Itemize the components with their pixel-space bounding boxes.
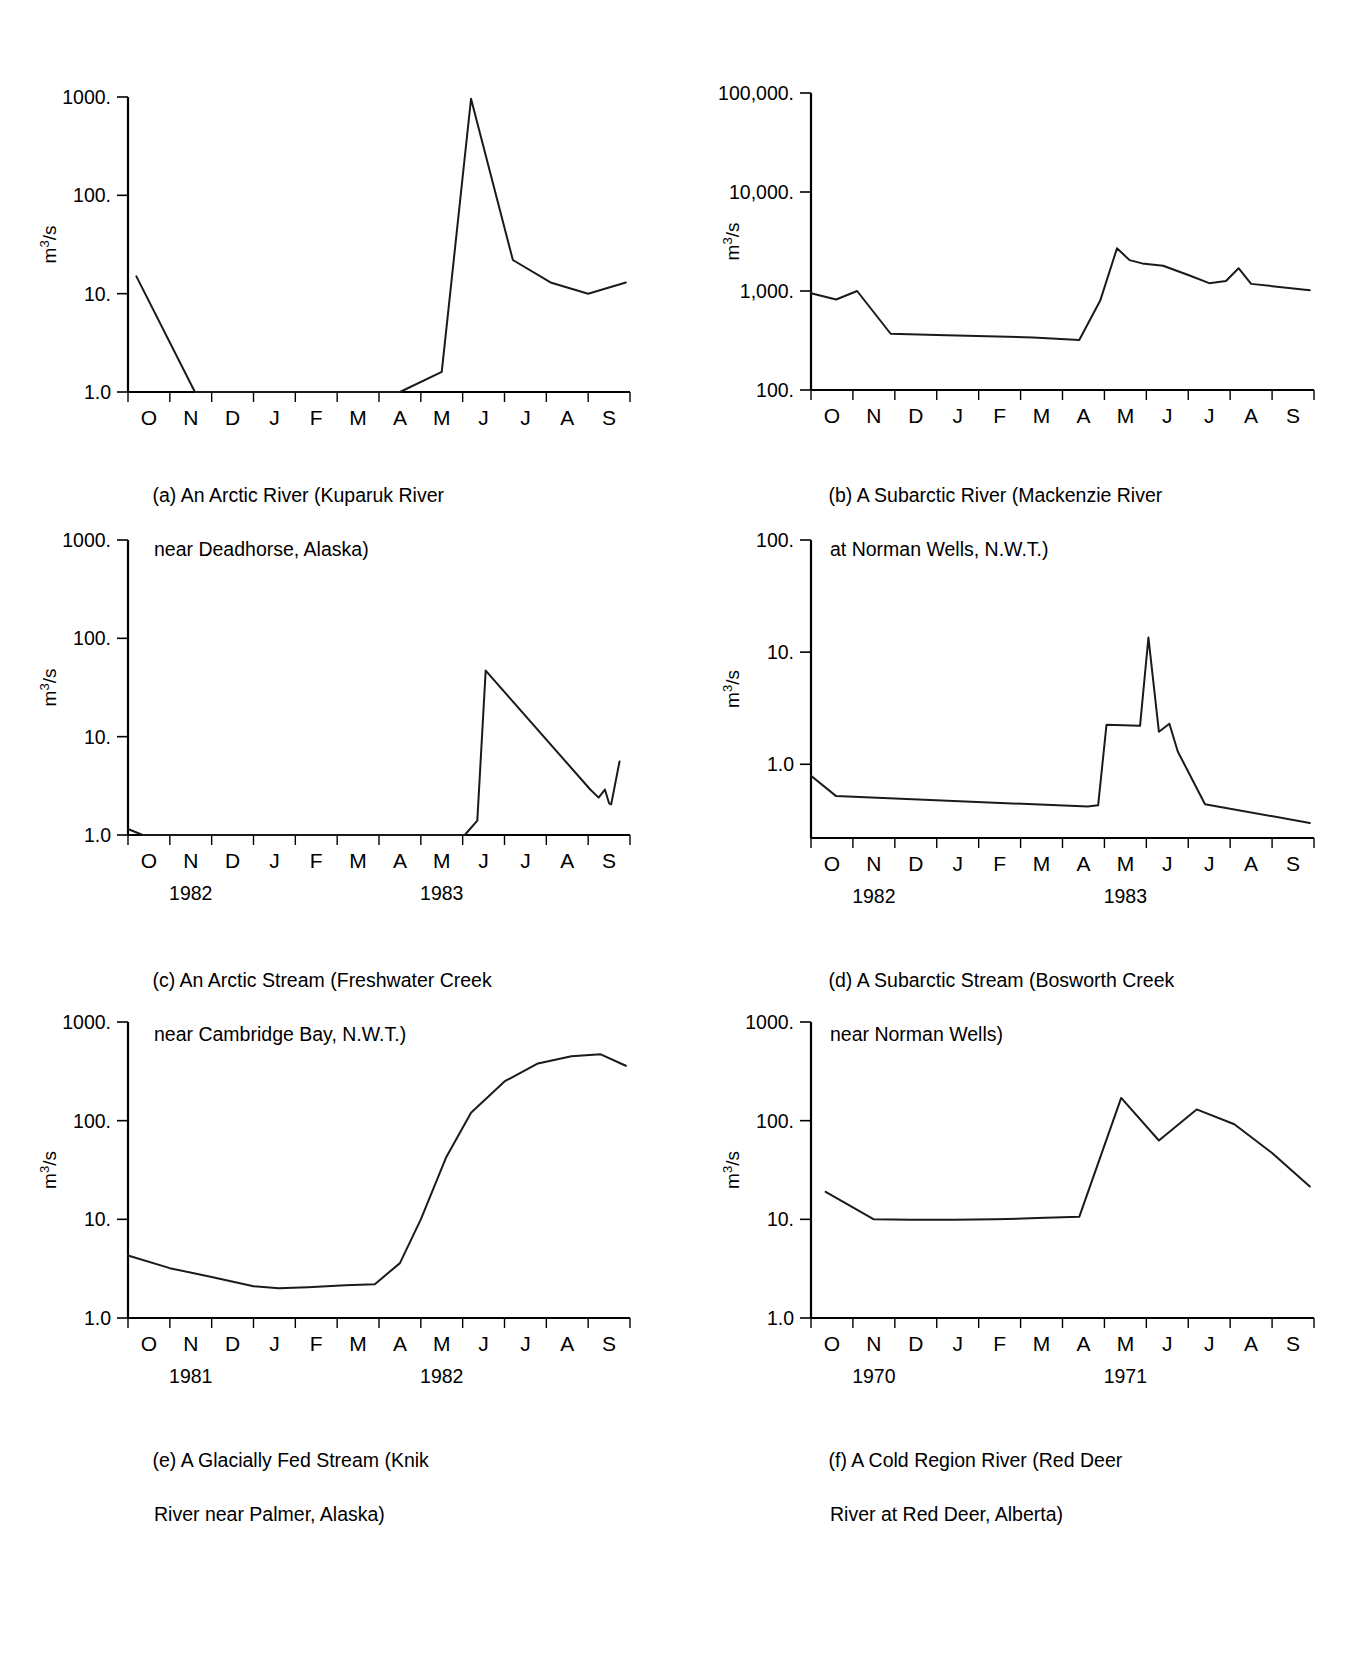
panel-c-svg: 1000.100.10.1.0m3/sONDJFMAMJJAS19821983 — [0, 520, 676, 925]
y-axis-title: m3/s — [37, 226, 60, 264]
y-axis-tick-label: 1000. — [62, 529, 111, 551]
y-axis-title: m3/s — [37, 1151, 60, 1189]
panel-d-svg: 100.10.1.0m3/sONDJFMAMJJAS19821983 — [676, 520, 1352, 925]
y-axis-tick-label: 10. — [84, 726, 111, 748]
x-axis-month-label: D — [225, 849, 240, 872]
x-axis-month-label: N — [866, 852, 881, 875]
y-axis-tick-label: 100. — [756, 379, 794, 401]
x-axis-month-label: D — [908, 1332, 923, 1355]
x-axis-month-label: S — [1286, 852, 1300, 875]
panel-f-svg: 1000.100.10.1.0m3/sONDJFMAMJJAS19701971 — [676, 1000, 1352, 1405]
y-axis-title: m3/s — [720, 223, 743, 261]
x-axis-month-label: O — [141, 849, 157, 872]
panel-e-plot: 1000.100.10.1.0m3/sONDJFMAMJJAS19811982 — [0, 1000, 676, 1405]
panel-f-caption-line1: (f) A Cold Region River (Red Deer — [829, 1449, 1123, 1471]
panel-d-plot: 100.10.1.0m3/sONDJFMAMJJAS19821983 — [676, 520, 1352, 925]
x-axis-month-label: M — [1117, 852, 1135, 875]
x-axis-month-label: J — [478, 849, 489, 872]
x-axis-month-label: F — [993, 404, 1006, 427]
x-axis-month-label: S — [602, 406, 616, 429]
x-axis-month-label: M — [1033, 1332, 1051, 1355]
y-axis-tick-label: 10. — [767, 641, 794, 663]
x-axis-month-label: A — [393, 406, 407, 429]
x-axis-year-label: 1982 — [852, 885, 895, 907]
x-axis-month-label: A — [1244, 852, 1258, 875]
x-axis-month-label: S — [602, 1332, 616, 1355]
panel-a-svg: 1000.100.10.1.0m3/sONDJFMAMJJAS19811982 — [0, 0, 676, 440]
panel-a-caption-line1: (a) An Arctic River (Kuparuk River — [153, 484, 445, 506]
x-axis-month-label: M — [433, 849, 451, 872]
hydrograph-data-line — [811, 638, 1310, 823]
panel-c-caption-line1: (c) An Arctic Stream (Freshwater Creek — [153, 969, 492, 991]
panel-a-plot: 1000.100.10.1.0m3/sONDJFMAMJJAS19811982 — [0, 0, 676, 440]
x-axis-month-label: F — [310, 1332, 323, 1355]
y-axis-tick-label: 100. — [756, 529, 794, 551]
hydrograph-data-line — [826, 1098, 1310, 1220]
y-axis-tick-label: 100. — [73, 627, 111, 649]
x-axis-month-label: F — [310, 406, 323, 429]
y-axis-tick-label: 1000. — [62, 86, 111, 108]
x-axis-year-label: 1981 — [169, 1365, 212, 1387]
x-axis-month-label: J — [1204, 1332, 1215, 1355]
panel-f-plot: 1000.100.10.1.0m3/sONDJFMAMJJAS19701971 — [676, 1000, 1352, 1405]
y-axis-tick-label: 1.0 — [767, 753, 794, 775]
y-axis-title-text: m3/s — [37, 226, 60, 264]
x-axis-month-label: O — [141, 406, 157, 429]
panel-d-caption-line1: (d) A Subarctic Stream (Bosworth Creek — [829, 969, 1175, 991]
y-axis-title-text: m3/s — [37, 1151, 60, 1189]
x-axis-month-label: N — [183, 406, 198, 429]
x-axis-month-label: J — [269, 849, 280, 872]
x-axis-year-label: 1982 — [169, 882, 212, 904]
panel-b-caption-line1: (b) A Subarctic River (Mackenzie River — [829, 484, 1163, 506]
y-axis-title-text: m3/s — [37, 669, 60, 707]
panel-e-caption-line2: River near Palmer, Alaska) — [120, 1501, 429, 1528]
x-axis-month-label: F — [310, 849, 323, 872]
x-axis-month-label: J — [269, 406, 280, 429]
panel-b: 100,000.10,000.1,000.100.m3/sONDJFMAMJJA… — [676, 0, 1352, 520]
hydrograph-data-line — [128, 671, 620, 835]
panel-e-caption: (e) A Glacially Fed Stream (Knik River n… — [120, 1420, 429, 1582]
x-axis-month-label: A — [393, 1332, 407, 1355]
x-axis-month-label: M — [349, 849, 367, 872]
x-axis-month-label: S — [1286, 404, 1300, 427]
y-axis-tick-label: 100. — [756, 1110, 794, 1132]
panel-c: 1000.100.10.1.0m3/sONDJFMAMJJAS19821983 … — [0, 520, 676, 1000]
x-axis-month-label: J — [520, 406, 531, 429]
hydrograph-data-line — [128, 1054, 626, 1288]
y-axis-tick-label: 1000. — [745, 1011, 794, 1033]
y-axis-tick-label: 100. — [73, 184, 111, 206]
hydrograph-figure-grid: 1000.100.10.1.0m3/sONDJFMAMJJAS19811982 … — [0, 0, 1352, 1659]
x-axis-month-label: J — [1204, 852, 1215, 875]
x-axis-year-label: 1982 — [420, 1365, 463, 1387]
x-axis-month-label: J — [952, 404, 963, 427]
x-axis-month-label: D — [225, 1332, 240, 1355]
y-axis-tick-label: 1000. — [62, 1011, 111, 1033]
x-axis-month-label: M — [433, 1332, 451, 1355]
x-axis-month-label: A — [1076, 852, 1090, 875]
y-axis-tick-label: 100,000. — [718, 82, 794, 104]
x-axis-month-label: O — [824, 1332, 840, 1355]
y-axis-tick-label: 10. — [767, 1208, 794, 1230]
x-axis-month-label: A — [560, 406, 574, 429]
panel-b-svg: 100,000.10,000.1,000.100.m3/sONDJFMAMJJA… — [676, 0, 1352, 440]
x-axis-month-label: D — [225, 406, 240, 429]
x-axis-month-label: A — [1076, 404, 1090, 427]
x-axis-month-label: O — [141, 1332, 157, 1355]
x-axis-month-label: J — [1162, 852, 1173, 875]
x-axis-month-label: J — [520, 1332, 531, 1355]
y-axis-title-text: m3/s — [720, 223, 743, 261]
x-axis-month-label: J — [952, 852, 963, 875]
panel-e: 1000.100.10.1.0m3/sONDJFMAMJJAS19811982 … — [0, 1000, 676, 1480]
panel-f-caption: (f) A Cold Region River (Red Deer River … — [796, 1420, 1122, 1582]
x-axis-month-label: J — [269, 1332, 280, 1355]
x-axis-month-label: S — [602, 849, 616, 872]
y-axis-tick-label: 10. — [84, 283, 111, 305]
x-axis-year-label: 1983 — [1104, 885, 1147, 907]
x-axis-month-label: M — [349, 1332, 367, 1355]
x-axis-month-label: N — [183, 1332, 198, 1355]
x-axis-month-label: M — [1033, 852, 1051, 875]
x-axis-month-label: M — [1117, 404, 1135, 427]
hydrograph-data-line — [136, 99, 625, 392]
x-axis-month-label: D — [908, 852, 923, 875]
y-axis-tick-label: 1.0 — [767, 1307, 794, 1329]
